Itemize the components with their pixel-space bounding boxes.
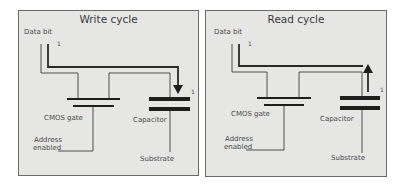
read-bit-value-label: 1 <box>248 40 252 48</box>
read-capacitor-bottom-plate <box>340 106 380 110</box>
write-gate-top-plate <box>67 98 120 100</box>
write-capacitor-label: Capacitor <box>133 116 167 124</box>
read-signal-path <box>239 44 363 66</box>
write-circuit <box>41 44 190 152</box>
write-capacitor-top-plate <box>149 97 190 101</box>
read-circuit <box>232 44 380 153</box>
write-signal-path <box>48 44 178 86</box>
read-capacitor-value-label: 1 <box>380 86 384 94</box>
read-gate-top-plate <box>257 97 311 99</box>
read-gate-bottom-plate <box>264 104 304 106</box>
write-address-label: Address <box>34 136 62 144</box>
read-substrate-label: Substrate <box>331 154 365 162</box>
read-arrow-up-icon <box>363 64 373 73</box>
read-data-bit-label: Data bit <box>214 28 242 36</box>
read-capacitor-top-plate <box>340 96 380 100</box>
write-enabled-label: enabled <box>33 144 61 152</box>
read-enabled-label: enabled <box>224 143 252 151</box>
write-arrow-down-icon <box>173 85 183 94</box>
read-gate-to-capacitor-wire <box>299 72 362 98</box>
read-capacitor-label: Capacitor <box>320 115 354 123</box>
write-gate-bottom-plate <box>73 105 114 107</box>
write-bit-value-label: 1 <box>57 40 61 48</box>
write-thin-data-wire <box>41 44 78 99</box>
write-capacitor-value-label: 1 <box>191 88 195 96</box>
write-cmos-gate-label: CMOS gate <box>44 114 83 122</box>
read-thin-data-wire <box>232 44 267 98</box>
read-address-label: Address <box>225 135 253 143</box>
read-cmos-gate-label: CMOS gate <box>231 110 270 118</box>
write-gate-to-capacitor-wire <box>109 73 170 99</box>
write-data-bit-label: Data bit <box>24 28 52 36</box>
write-capacitor-bottom-plate <box>149 107 190 111</box>
write-substrate-label: Substrate <box>140 155 174 163</box>
